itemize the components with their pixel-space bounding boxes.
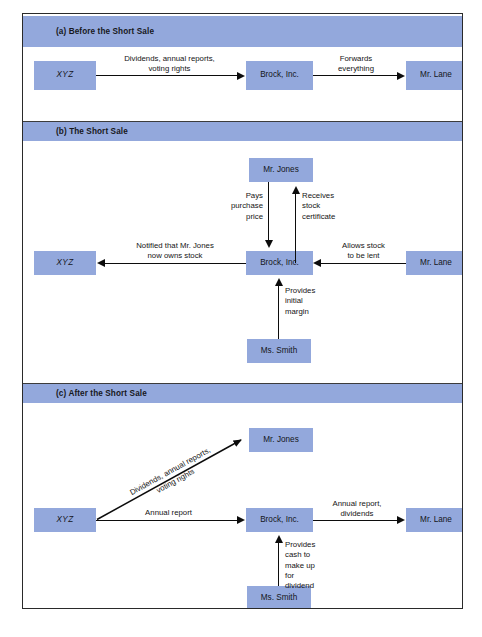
section-b-arrow-brock-to-xyz-head	[97, 259, 105, 267]
section-a-arrow-brock-to-lane-head	[397, 72, 405, 80]
figure-frame: (a) Before the Short Sale XYZ Brock, Inc…	[22, 13, 463, 609]
section-b-label-allows-stock-to-be-lent: Allows stock to be lent	[326, 241, 401, 262]
section-c-arrow-brock-to-lane-head	[397, 516, 405, 524]
section-c-label-annual-report-dividends: Annual report, dividends	[319, 499, 395, 520]
section-a-arrow-brock-to-lane-line	[313, 75, 398, 76]
section-c-title: (c) After the Short Sale	[56, 389, 147, 398]
section-a-box-xyz: XYZ	[34, 61, 96, 90]
section-b-arrow-lane-to-brock-head	[313, 259, 321, 267]
section-c-label-dividends-annual-reports-voting-rights: Dividends, annual reports, voting rights	[115, 438, 230, 514]
section-c-label-provides-cash-to-make-up-for-dividend: Provides cash to make up for dividend	[285, 540, 343, 591]
section-b-arrow-brock-to-jones-line	[295, 194, 296, 263]
section-a-label-forwards-everything: Forwards everything	[320, 54, 392, 75]
section-a-label-dividends-annual-reports-voting-rights: Dividends, annual reports, voting rights	[107, 54, 232, 75]
section-b-box-smith: Ms. Smith	[247, 339, 311, 363]
section-b-box-lane: Mr. Lane	[406, 251, 463, 275]
section-b-box-brock: Brock, Inc.	[246, 251, 313, 275]
section-c-box-xyz: XYZ	[34, 508, 96, 532]
section-b-arrow-brock-to-jones-head	[292, 186, 300, 194]
section-c-box-lane: Mr. Lane	[406, 508, 463, 532]
section-a-box-lane: Mr. Lane	[406, 61, 463, 90]
section-b-header-bar: (b) The Short Sale	[23, 122, 462, 141]
section-b-label-receives-stock-certificate: Receives stock certificate	[302, 191, 364, 222]
section-a-header-bar: (a) Before the Short Sale	[23, 16, 462, 47]
section-b-arrow-jones-to-brock-line	[268, 182, 269, 240]
section-b-arrow-smith-to-brock-line	[278, 286, 279, 339]
section-b-label-pays-purchase-price: Pays purchase price	[213, 191, 263, 222]
section-b-arrow-brock-to-xyz-line	[105, 263, 246, 264]
section-c-header-bar: (c) After the Short Sale	[23, 384, 462, 403]
section-b-box-xyz: XYZ	[34, 251, 96, 275]
section-b-label-notified-that-mr-jones-now-owns-stock: Notified that Mr. Jones now owns stock	[108, 241, 242, 262]
section-c-box-brock: Brock, Inc.	[246, 508, 313, 532]
section-c-arrow-brock-to-lane-line	[313, 520, 398, 521]
section-a-box-brock: Brock, Inc.	[246, 61, 313, 90]
section-b-arrow-jones-to-brock-head	[265, 240, 273, 248]
section-c-arrow-smith-to-brock-head	[275, 535, 283, 543]
section-c-arrow-xyz-to-brock-head	[237, 516, 245, 524]
section-b-arrow-smith-to-brock-head	[275, 278, 283, 286]
section-a-title: (a) Before the Short Sale	[56, 27, 154, 36]
figure-root: (a) Before the Short Sale XYZ Brock, Inc…	[0, 0, 482, 637]
section-b-arrow-lane-to-brock-line	[321, 263, 406, 264]
section-c-arrow-xyz-to-brock-line	[96, 520, 238, 521]
section-b-title: (b) The Short Sale	[56, 127, 128, 136]
section-a-arrow-xyz-to-brock-line	[96, 75, 238, 76]
section-b-label-provides-initial-margin: Provides initial margin	[285, 286, 340, 317]
section-c-box-jones: Mr. Jones	[249, 428, 313, 452]
section-b-box-jones: Mr. Jones	[249, 158, 313, 182]
section-c-label-annual-report: Annual report	[121, 508, 216, 518]
section-c-arrow-smith-to-brock-line	[278, 543, 279, 586]
section-a-arrow-xyz-to-brock-head	[237, 72, 245, 80]
